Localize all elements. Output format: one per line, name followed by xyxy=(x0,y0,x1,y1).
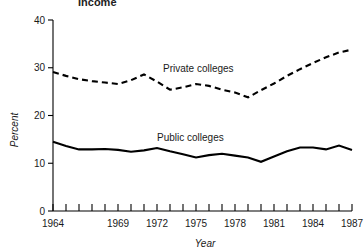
x-axis-tick-label: 1978 xyxy=(224,218,247,229)
y-axis-tick-label: 40 xyxy=(34,15,46,26)
y-axis-tick-label: 0 xyxy=(39,206,45,217)
chart-svg: 010203040 196419691972197519781981198419… xyxy=(0,0,364,252)
chart-container: Income 010203040 19641969197219751978198… xyxy=(0,0,364,252)
x-axis-tick-label: 1972 xyxy=(146,218,169,229)
y-axis-tick-label: 20 xyxy=(34,110,46,121)
x-axis-tick-label: 1981 xyxy=(263,218,286,229)
x-axis-tick-label: 1975 xyxy=(185,218,208,229)
series-label-private-colleges: Private colleges xyxy=(163,63,234,74)
y-axis-tick-label: 10 xyxy=(34,158,46,169)
series-line-public-colleges xyxy=(53,142,352,162)
x-axis: 19641969197219751978198119841987 xyxy=(42,204,364,229)
series-label-public-colleges: Public colleges xyxy=(157,132,224,143)
y-axis-title: Percent xyxy=(9,112,20,148)
series-label-layer: Private collegesPublic colleges xyxy=(157,63,234,143)
x-axis-title: Year xyxy=(195,238,216,249)
x-axis-tick-label: 1984 xyxy=(302,218,325,229)
y-axis: 010203040 xyxy=(34,15,53,217)
x-axis-tick-label: 1987 xyxy=(341,218,364,229)
x-axis-tick-label: 1964 xyxy=(42,218,65,229)
x-axis-tick-label: 1969 xyxy=(107,218,130,229)
y-axis-tick-label: 30 xyxy=(34,62,46,73)
